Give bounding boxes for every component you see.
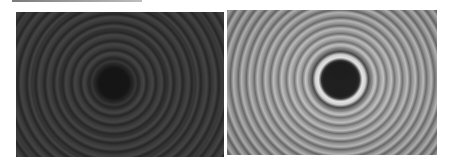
top-edge-bar bbox=[12, 0, 142, 2]
interference-image-high-contrast bbox=[227, 10, 437, 155]
interference-image-low-contrast bbox=[16, 12, 224, 157]
